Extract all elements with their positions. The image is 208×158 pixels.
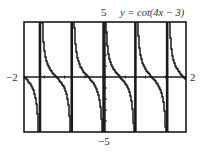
equation-label: y = cot(4x − 3) <box>120 7 184 18</box>
ymax-label: 5 <box>101 7 107 18</box>
xmin-label: −2 <box>6 72 18 83</box>
ymin-label: −5 <box>98 136 110 147</box>
xmax-label: 2 <box>190 72 196 83</box>
